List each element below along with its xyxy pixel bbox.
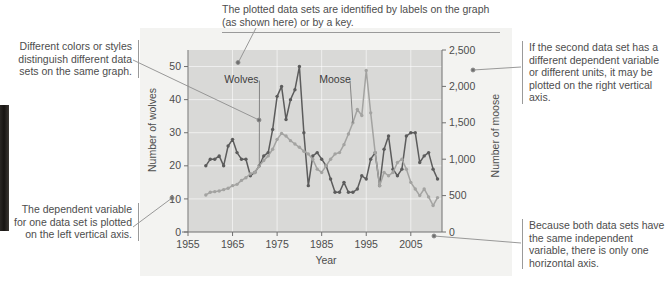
series-point-wolves (431, 167, 434, 170)
series-point-moose (226, 187, 229, 190)
tick-label-x: 1965 (221, 238, 245, 250)
series-point-wolves (262, 154, 265, 157)
tick-label-right: 0 (449, 226, 455, 238)
series-point-wolves (235, 151, 238, 154)
callout-left-top: Different colors or styles distinguish d… (10, 40, 139, 78)
series-point-moose (217, 189, 220, 192)
series-point-wolves (422, 154, 425, 157)
tick-label-right: 1,500 (449, 116, 475, 128)
y-axis-left-title: Number of wolves (146, 88, 158, 172)
series-point-wolves (302, 131, 305, 134)
tick-label-left: 30 (169, 126, 181, 138)
series-point-moose (307, 152, 310, 155)
series-point-wolves (217, 154, 220, 157)
series-label-moose: Moose (319, 73, 351, 85)
series-point-moose (213, 190, 216, 193)
series-point-moose (422, 187, 425, 190)
tick-label-x: 2005 (399, 238, 423, 250)
series-point-moose (400, 158, 403, 161)
series-point-wolves (356, 187, 359, 190)
series-point-wolves (209, 158, 212, 161)
series-point-wolves (244, 158, 247, 161)
series-point-moose (418, 194, 421, 197)
series-point-moose (267, 154, 270, 157)
callout-left-bottom: The dependent variable for one data set … (8, 203, 139, 241)
tick-label-left: 20 (169, 159, 181, 171)
series-point-moose (275, 138, 278, 141)
series-point-moose (329, 158, 332, 161)
tick-label-right: 1,000 (449, 153, 475, 165)
series-point-moose (204, 193, 207, 196)
series-point-wolves (231, 138, 234, 141)
tick-label-left: 40 (169, 93, 181, 105)
series-point-moose (293, 142, 296, 145)
series-point-wolves (382, 148, 385, 151)
series-point-moose (235, 183, 238, 186)
callout-right-top: If the second data set has a different d… (522, 41, 669, 104)
callout-top: The plotted data sets are identified by … (222, 3, 500, 33)
tick-label-left: 50 (169, 60, 181, 72)
series-point-moose (209, 191, 212, 194)
series-point-wolves (293, 88, 296, 91)
series-point-moose (320, 171, 323, 174)
series-point-wolves (351, 191, 354, 194)
series-point-moose (409, 181, 412, 184)
series-point-moose (431, 204, 434, 207)
series-point-wolves (204, 164, 207, 167)
series-point-wolves (387, 134, 390, 137)
series-point-moose (373, 151, 376, 154)
series-point-wolves (400, 167, 403, 170)
series-point-wolves (280, 85, 283, 88)
series-point-moose (289, 139, 292, 142)
series-point-moose (244, 176, 247, 179)
series-point-wolves (240, 158, 243, 161)
series-point-wolves (320, 158, 323, 161)
series-point-wolves (226, 144, 229, 147)
tick-label-x: 1995 (355, 238, 379, 250)
series-point-moose (378, 184, 381, 187)
series-point-wolves (396, 174, 399, 177)
tick-label-x: 1975 (265, 238, 289, 250)
series-point-wolves (271, 128, 274, 131)
tick-label-x: 1955 (176, 238, 200, 250)
series-point-wolves (427, 151, 430, 154)
figure-card: 0102030405005001,0001,5002,0002,50019551… (140, 28, 512, 276)
x-axis-title: Year (140, 254, 512, 266)
tick-label-right: 2,500 (449, 44, 475, 56)
tick-label-left: 10 (169, 193, 181, 205)
series-point-moose (324, 164, 327, 167)
tick-label-right: 500 (449, 189, 467, 201)
series-point-moose (271, 148, 274, 151)
series-point-moose (427, 195, 430, 198)
series-point-wolves (405, 134, 408, 137)
series-point-moose (262, 159, 265, 162)
series-point-wolves (338, 191, 341, 194)
series-point-moose (405, 167, 408, 170)
series-point-moose (311, 158, 314, 161)
series-point-wolves (409, 131, 412, 134)
series-point-moose (396, 161, 399, 164)
series-point-moose (369, 111, 372, 114)
tick-label-left: 0 (175, 226, 181, 238)
series-point-moose (436, 196, 439, 199)
series-point-moose (365, 69, 368, 72)
series-point-wolves (360, 174, 363, 177)
series-point-moose (347, 132, 350, 135)
series-point-moose (231, 184, 234, 187)
series-point-moose (253, 171, 256, 174)
series-point-wolves (222, 164, 225, 167)
series-point-moose (298, 146, 301, 149)
series-point-wolves (213, 158, 216, 161)
series-point-moose (414, 187, 417, 190)
series-point-moose (333, 152, 336, 155)
series-point-wolves (414, 131, 417, 134)
series-point-wolves (418, 161, 421, 164)
series-point-wolves (307, 184, 310, 187)
series-point-wolves (298, 65, 301, 68)
series-point-moose (356, 108, 359, 111)
series-label-wolves: Wolves (224, 73, 258, 85)
series-point-moose (240, 179, 243, 182)
series-point-moose (249, 172, 252, 175)
series-point-wolves (289, 98, 292, 101)
series-point-moose (391, 171, 394, 174)
